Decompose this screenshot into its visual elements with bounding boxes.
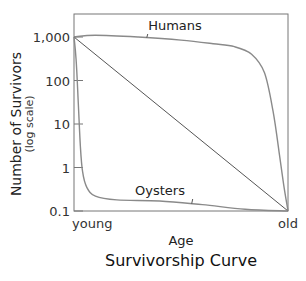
y-tick-label: 100	[45, 74, 70, 89]
y-tick-label: 0.1	[49, 204, 70, 219]
y-axis-label: Number of Survivors	[8, 52, 24, 196]
y-tick-label: 10	[53, 117, 70, 132]
plot-frame	[74, 14, 288, 211]
y-tick-label: 1	[62, 161, 70, 176]
annotation-oysters: Oysters	[135, 183, 185, 198]
x-tick-label: young	[72, 216, 112, 231]
survivorship-chart: 1,0001001010.1 youngold HumansOysters Nu…	[0, 0, 306, 281]
x-axis-label: Age	[168, 233, 193, 248]
y-tick-label: 1,000	[33, 30, 70, 45]
x-tick-label: old	[278, 216, 298, 231]
chart-title: Survivorship Curve	[105, 251, 257, 270]
annotation-humans: Humans	[148, 18, 202, 33]
y-axis-sublabel: (log scale)	[23, 95, 36, 152]
